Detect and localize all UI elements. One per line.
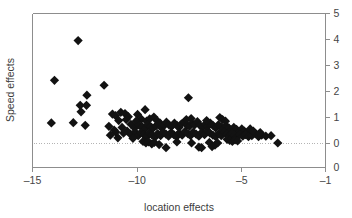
data-point	[69, 118, 78, 127]
data-point	[140, 105, 149, 114]
data-point	[99, 81, 108, 90]
x-tick-label: –15	[24, 174, 42, 186]
y-tick-label: 2	[334, 85, 340, 97]
plot-canvas: –15–10–5–1 0123450 location effects Spee…	[0, 0, 352, 218]
y-tick-label: 5	[334, 7, 340, 19]
y-axis-ticks: 0123450	[326, 7, 340, 173]
scatter-plot-figure: –15–10–5–1 0123450 location effects Spee…	[0, 0, 352, 218]
x-tick-label: –5	[236, 174, 248, 186]
data-point	[76, 107, 85, 116]
y-tick-label: 1	[334, 111, 340, 123]
y-tick-label: 0	[334, 137, 340, 149]
data-point	[82, 91, 91, 100]
x-tick-label: –1	[320, 174, 332, 186]
x-tick-label: –10	[128, 174, 146, 186]
data-point	[187, 138, 196, 147]
y-axis-origin-label: 0	[334, 161, 340, 173]
data-point	[184, 93, 193, 102]
data-point-series	[47, 36, 283, 152]
y-axis-title: Speed effects	[4, 58, 16, 122]
y-tick-label: 4	[334, 33, 340, 45]
data-point	[82, 101, 91, 110]
data-point	[81, 121, 90, 130]
data-point	[47, 118, 56, 127]
y-tick-label: 3	[334, 59, 340, 71]
x-axis-ticks: –15–10–5–1	[24, 168, 332, 186]
data-point	[266, 131, 275, 140]
data-point	[273, 138, 282, 147]
x-axis-title: location effects	[144, 201, 214, 213]
data-point	[50, 76, 59, 85]
data-point	[74, 36, 83, 45]
